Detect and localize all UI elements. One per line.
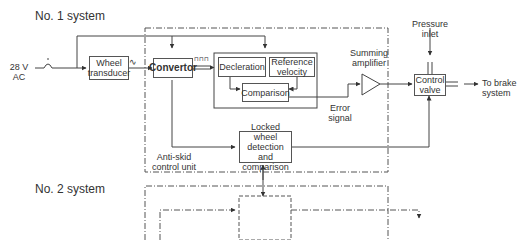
anti-skid-unit-label: Anti-skid control unit	[148, 152, 200, 172]
error-signal-label: Error signal	[325, 103, 355, 123]
deceleration-block: Decleration	[218, 57, 266, 77]
power-input-label: 28 V AC	[4, 62, 34, 82]
convertor-block: Convertor	[153, 58, 193, 78]
control-valve-block: Control valve	[414, 74, 446, 96]
system2-title: No. 2 system	[35, 182, 105, 196]
ac-wave-icon: ∿	[129, 57, 137, 67]
locked-wheel-detection-block: Locked wheel detection and comparison	[239, 131, 292, 163]
pulse-icon: ⊓⊓⊓	[194, 56, 209, 62]
comparison-block: Comparison	[242, 83, 289, 102]
pressure-inlet-label: Pressure inlet	[411, 19, 449, 39]
summing-amplifier-label: Summing amplifier	[349, 48, 389, 68]
wheel-transducer-block: Wheel transducer	[89, 56, 129, 80]
system1-title: No. 1 system	[35, 9, 105, 23]
reference-velocity-block: Reference velocity	[269, 57, 315, 77]
to-brake-system-label: To brake system	[482, 78, 517, 98]
